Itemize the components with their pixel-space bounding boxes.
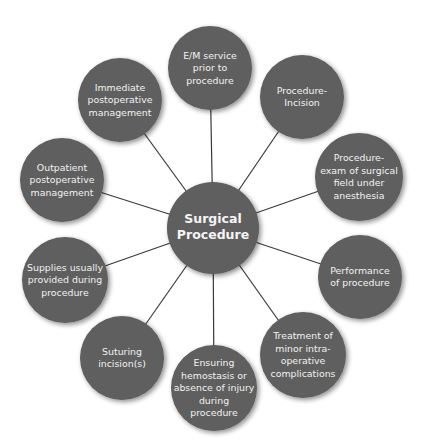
node-procedure-exam: Procedure-exam of surgicalfield underane… — [315, 133, 403, 221]
node-label-line: absence of injury — [174, 382, 255, 393]
node-label-line: Suturing — [102, 346, 142, 357]
node-label-line: operative — [281, 355, 326, 366]
node-label-line: Treatment of — [272, 330, 333, 341]
node-suturing: Suturingincision(s) — [80, 316, 164, 400]
node-label-line: Procedure- — [334, 152, 385, 163]
node-label-line: Outpatient — [37, 162, 88, 173]
node-label-line: incision(s) — [98, 358, 146, 369]
node-label-line: Procedure — [177, 227, 249, 242]
node-label-line: of procedure — [330, 277, 390, 288]
node-label-line: provided during — [28, 274, 102, 285]
node-label-line: exam of surgical — [320, 165, 398, 176]
node-procedure-incision: Procedure-Incision — [260, 55, 344, 139]
node-label-line: Supplies usually — [27, 262, 103, 273]
node-label-line: management — [89, 107, 152, 118]
node-label-line: postoperative — [88, 94, 153, 105]
node-treatment: Treatment ofminor intra-operativecomplic… — [260, 312, 346, 398]
node-label-line: management — [31, 187, 94, 198]
center-node: SurgicalProcedure — [167, 182, 259, 274]
node-label-line: prior to — [193, 62, 228, 73]
node-label-line: E/M service — [183, 50, 237, 61]
node-immediate-postop: Immediatepostoperativemanagement — [78, 58, 162, 142]
node-label-line: anesthesia — [334, 190, 385, 201]
node-performance: Performanceof procedure — [318, 235, 402, 319]
node-label-line: minor intra- — [275, 343, 330, 354]
node-label-line: Performance — [330, 265, 390, 276]
node-label-line: postoperative — [30, 174, 95, 185]
node-em-service: E/M serviceprior toprocedure — [168, 26, 252, 110]
node-label-line: Incision — [284, 97, 320, 108]
surgical-procedure-diagram: E/M serviceprior toprocedureProcedure-In… — [0, 0, 427, 440]
node-label-line: procedure — [190, 407, 238, 418]
node-label-line: during — [199, 395, 229, 406]
node-label-line: complications — [271, 368, 336, 379]
node-label-line: Ensuring — [193, 357, 234, 368]
node-ensuring-hemostasis: Ensuringhemostasis orabsence of injurydu… — [171, 345, 257, 431]
node-label-line: procedure — [41, 287, 89, 298]
node-label-line: procedure — [186, 75, 234, 86]
node-outpatient-postop: Outpatientpostoperativemanagement — [20, 138, 104, 222]
node-label-line: Immediate — [95, 82, 146, 93]
node-supplies: Supplies usuallyprovided duringprocedure — [22, 237, 108, 323]
node-label-line: Procedure- — [277, 85, 328, 96]
node-label-line: field under — [334, 177, 385, 188]
node-label-line: Surgical — [184, 211, 241, 226]
node-label-line: hemostasis or — [181, 370, 247, 381]
